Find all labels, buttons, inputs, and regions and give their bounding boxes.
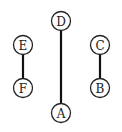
node-a: A <box>52 104 71 123</box>
node-label: A <box>56 107 66 121</box>
node-d: D <box>52 12 71 31</box>
graph-diagram: D A E F C B <box>0 0 122 132</box>
node-c: C <box>91 36 110 55</box>
node-label: E <box>19 39 28 53</box>
node-label: D <box>56 15 66 29</box>
node-b: B <box>91 79 110 98</box>
node-e: E <box>14 36 33 55</box>
node-label: F <box>19 82 27 96</box>
node-label: B <box>96 82 105 96</box>
node-f: F <box>14 79 33 98</box>
node-label: C <box>95 39 104 53</box>
